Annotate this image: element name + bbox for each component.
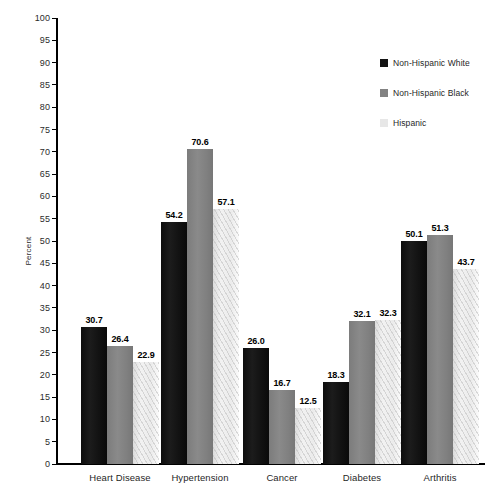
y-tick-15: 15 — [40, 392, 57, 402]
y-tick-label: 55 — [40, 214, 50, 224]
y-tick-mark — [52, 129, 57, 130]
x-axis-label-diabetes: Diabetes — [343, 472, 381, 483]
y-tick-100: 100 — [35, 13, 57, 23]
y-tick-20: 20 — [40, 370, 57, 380]
chart-legend: Non-Hispanic WhiteNon-Hispanic BlackHisp… — [380, 58, 490, 148]
y-tick-label: 50 — [40, 236, 50, 246]
bar-value-label: 70.6 — [191, 137, 208, 147]
y-tick-70: 70 — [40, 147, 57, 157]
y-tick-85: 85 — [40, 80, 57, 90]
bar-hypertension-non-hispanic-black[interactable]: 70.6 — [187, 149, 213, 464]
bar-heart-disease-non-hispanic-white[interactable]: 30.7 — [81, 327, 107, 464]
legend-item-non-hispanic-black[interactable]: Non-Hispanic Black — [380, 88, 490, 98]
bar-value-label: 22.9 — [137, 350, 154, 360]
y-tick-mark — [52, 40, 57, 41]
y-tick-5: 5 — [45, 437, 57, 447]
bar-hypertension-hispanic[interactable]: 57.1 — [213, 209, 239, 464]
y-tick-mark — [52, 352, 57, 353]
bar-value-label: 54.2 — [165, 210, 182, 220]
y-tick-label: 70 — [40, 147, 50, 157]
bar-cancer-hispanic[interactable]: 12.5 — [295, 408, 321, 464]
legend-swatch-icon — [380, 119, 388, 127]
y-tick-label: 85 — [40, 80, 50, 90]
bar-heart-disease-non-hispanic-black[interactable]: 26.4 — [107, 346, 133, 464]
y-tick-mark — [52, 419, 57, 420]
y-tick-55: 55 — [40, 214, 57, 224]
y-tick-label: 100 — [35, 13, 50, 23]
y-tick-label: 45 — [40, 258, 50, 268]
bar-slot: 57.1 — [213, 18, 239, 464]
y-tick-label: 30 — [40, 325, 50, 335]
bar-group-cancer: 26.016.712.5 — [243, 18, 321, 464]
y-tick-90: 90 — [40, 58, 57, 68]
legend-label: Non-Hispanic Black — [393, 88, 469, 98]
legend-item-non-hispanic-white[interactable]: Non-Hispanic White — [380, 58, 490, 68]
bar-arthritis-non-hispanic-black[interactable]: 51.3 — [427, 235, 453, 464]
bar-hypertension-non-hispanic-white[interactable]: 54.2 — [161, 222, 187, 464]
y-tick-label: 15 — [40, 392, 50, 402]
bar-slot: 30.7 — [81, 18, 107, 464]
y-tick-label: 60 — [40, 191, 50, 201]
y-tick-mark — [52, 441, 57, 442]
y-tick-25: 25 — [40, 348, 57, 358]
y-tick-mark — [52, 330, 57, 331]
y-tick-label: 65 — [40, 169, 50, 179]
y-tick-80: 80 — [40, 102, 57, 112]
x-axis-label-heart-disease: Heart Disease — [89, 472, 151, 483]
bar-value-label: 18.3 — [327, 370, 344, 380]
y-tick-label: 95 — [40, 35, 50, 45]
x-axis-label-hypertension: Hypertension — [171, 472, 228, 483]
y-axis-title: Percent — [24, 236, 33, 265]
bar-value-label: 32.1 — [353, 309, 370, 319]
y-tick-mark — [52, 151, 57, 152]
y-tick-45: 45 — [40, 258, 57, 268]
y-tick-10: 10 — [40, 414, 57, 424]
bar-slot: 26.0 — [243, 18, 269, 464]
y-tick-label: 5 — [45, 437, 50, 447]
bar-slot: 16.7 — [269, 18, 295, 464]
y-tick-50: 50 — [40, 236, 57, 246]
bar-group-heart-disease: 30.726.422.9 — [81, 18, 159, 464]
bar-value-label: 26.0 — [247, 336, 264, 346]
bar-group-hypertension: 54.270.657.1 — [161, 18, 239, 464]
bar-value-label: 26.4 — [111, 334, 128, 344]
chart-screenshot: Percent 10095908580757065605550454035302… — [0, 0, 492, 501]
y-tick-mark — [52, 241, 57, 242]
bar-diabetes-non-hispanic-white[interactable]: 18.3 — [323, 382, 349, 464]
y-tick-label: 35 — [40, 303, 50, 313]
bar-arthritis-hispanic[interactable]: 43.7 — [453, 269, 479, 464]
bar-slot: 54.2 — [161, 18, 187, 464]
bar-arthritis-non-hispanic-white[interactable]: 50.1 — [401, 241, 427, 464]
y-tick-75: 75 — [40, 125, 57, 135]
y-tick-label: 10 — [40, 414, 50, 424]
y-tick-label: 75 — [40, 125, 50, 135]
bar-cancer-non-hispanic-black[interactable]: 16.7 — [269, 390, 295, 464]
bar-cancer-non-hispanic-white[interactable]: 26.0 — [243, 348, 269, 464]
y-tick-mark — [52, 374, 57, 375]
y-tick-label: 20 — [40, 370, 50, 380]
bar-heart-disease-hispanic[interactable]: 22.9 — [133, 362, 159, 464]
y-tick-mark — [52, 196, 57, 197]
y-tick-40: 40 — [40, 281, 57, 291]
bar-diabetes-hispanic[interactable]: 32.3 — [375, 320, 401, 464]
y-tick-mark — [52, 84, 57, 85]
bar-slot: 12.5 — [295, 18, 321, 464]
x-axis-label-cancer: Cancer — [266, 472, 297, 483]
bar-slot: 22.9 — [133, 18, 159, 464]
legend-label: Non-Hispanic White — [393, 58, 470, 68]
bar-slot: 32.1 — [349, 18, 375, 464]
y-tick-label: 40 — [40, 281, 50, 291]
x-axis-label-arthritis: Arthritis — [423, 472, 456, 483]
y-tick-mark — [52, 263, 57, 264]
y-tick-mark — [52, 218, 57, 219]
bar-value-label: 51.3 — [431, 223, 448, 233]
y-tick-label: 0 — [45, 459, 50, 469]
y-tick-95: 95 — [40, 35, 57, 45]
y-tick-mark — [52, 285, 57, 286]
legend-item-hispanic[interactable]: Hispanic — [380, 118, 490, 128]
y-tick-60: 60 — [40, 191, 57, 201]
bar-value-label: 50.1 — [405, 229, 422, 239]
y-tick-0: 0 — [45, 459, 57, 469]
bar-diabetes-non-hispanic-black[interactable]: 32.1 — [349, 321, 375, 464]
y-tick-mark — [52, 397, 57, 398]
